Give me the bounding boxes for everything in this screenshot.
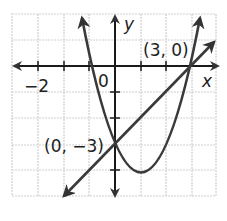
point-label-0-neg3: (0, −3)	[44, 136, 104, 156]
tick-label-neg2: −2	[24, 76, 49, 96]
y-axis-label: y	[123, 14, 135, 34]
graph: y x −2 0 (3, 0) (0, −3)	[0, 0, 227, 221]
tick-label-0: 0	[98, 71, 109, 91]
point-label-3-0: (3, 0)	[143, 40, 189, 60]
x-axis-label: x	[201, 71, 213, 91]
